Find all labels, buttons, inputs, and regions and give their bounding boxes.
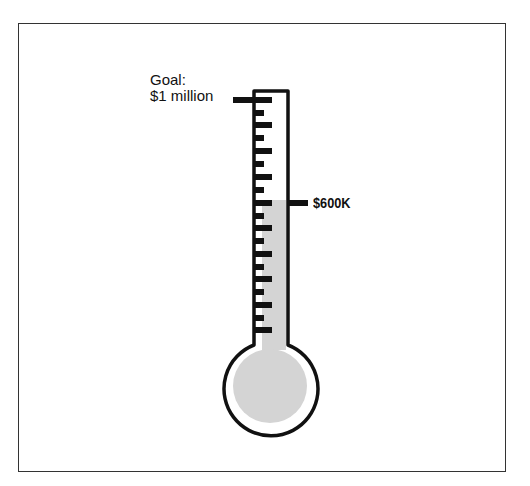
bulb-fill <box>233 349 307 423</box>
current-marker <box>288 200 308 206</box>
goal-marker <box>233 97 255 103</box>
goal-label-line1: Goal: <box>150 72 213 88</box>
goal-label-line2: $1 million <box>150 88 213 104</box>
thermometer-graphic <box>0 0 530 486</box>
current-value-label: $600K <box>313 194 351 211</box>
goal-label: Goal: $1 million <box>150 72 213 104</box>
